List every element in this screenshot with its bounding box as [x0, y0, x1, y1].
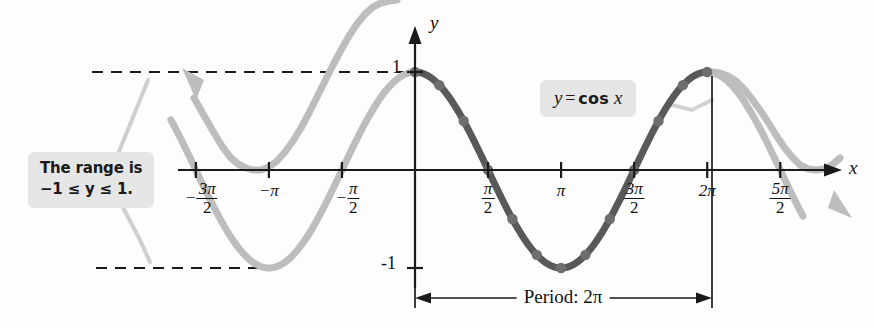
right-curve-arrowhead: [828, 190, 852, 218]
marked-point: [605, 214, 615, 224]
x-tick-label: 5π2: [770, 180, 791, 217]
x-tick-label: π: [557, 182, 566, 200]
equation-lhs: y: [554, 87, 562, 108]
marked-point: [702, 67, 712, 77]
x-tick-label: −3π2: [186, 180, 218, 217]
x-tick-label: −π: [259, 182, 279, 200]
equation-function-name: cos: [578, 89, 609, 108]
cosine-graph-figure: y x 1 -1 −3π2−π−π2π2π3π22π5π2 Period: 2π…: [0, 0, 874, 328]
x-tick-label: π2: [482, 180, 495, 217]
marked-point: [532, 250, 542, 260]
equation-callout: y=cosx: [540, 80, 636, 117]
cosine-curve-left-faded: [196, 4, 401, 170]
marked-point: [507, 214, 517, 224]
y-tick-label-minus-1: -1: [381, 253, 396, 274]
range-callout-leader-lower: [118, 198, 150, 262]
x-tick-label: 2π: [699, 182, 716, 200]
x-tick-label: 3π2: [624, 180, 645, 217]
range-callout: The range is −1 ≤ y ≤ 1.: [28, 152, 154, 208]
y-axis-arrowhead: [409, 26, 422, 44]
marked-point: [556, 263, 566, 273]
x-axis-label: x: [849, 157, 857, 179]
y-tick-label-1: 1: [392, 57, 401, 78]
equation-equals-sign: =: [562, 88, 578, 108]
y-axis-label: y: [430, 12, 438, 34]
cosine-curve-faded-left: [194, 0, 397, 170]
marked-point: [653, 116, 663, 126]
range-callout-line2: −1 ≤ y ≤ 1.: [40, 180, 142, 200]
equation-argument: x: [609, 87, 622, 108]
marked-point: [678, 80, 688, 90]
period-arrowhead-right: [696, 293, 712, 304]
equation-callout-leader: [668, 100, 712, 110]
marked-point: [580, 250, 590, 260]
marked-point: [459, 116, 469, 126]
period-annotation-label: Period: 2π: [517, 286, 610, 308]
x-tick-label: −π2: [336, 180, 359, 217]
range-callout-line1: The range is: [40, 159, 142, 179]
range-callout-leader-upper: [118, 80, 148, 154]
period-arrowhead-left: [415, 293, 431, 304]
marked-point: [434, 80, 444, 90]
